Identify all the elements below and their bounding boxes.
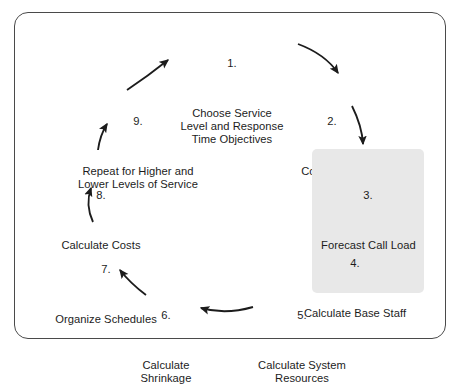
node-4-number: 4.	[295, 257, 415, 270]
cycle-node-9[interactable]: 9. Repeat for Higher and Lower Levels of…	[62, 78, 214, 228]
node-7-label: Organize Schedules	[48, 313, 164, 326]
node-9-label: Repeat for Higher and Lower Levels of Se…	[62, 165, 214, 191]
node-5-number: 5.	[246, 309, 358, 322]
node-8-label: Calculate Costs	[50, 239, 152, 252]
node-3-number: 3.	[321, 189, 415, 202]
cycle-node-5[interactable]: 5. Calculate System Resources	[246, 272, 358, 388]
node-2-number: 2.	[289, 115, 375, 128]
node-1-number: 1.	[168, 57, 296, 70]
node-9-number: 9.	[62, 115, 214, 128]
node-5-label: Calculate System Resources	[246, 359, 358, 385]
